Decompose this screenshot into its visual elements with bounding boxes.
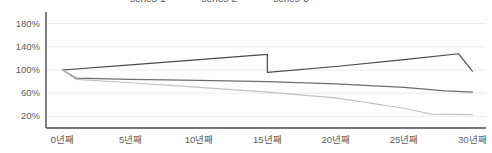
x-axis-tick-label: 15년째: [253, 134, 282, 145]
x-axis-tick-label: 0년째: [51, 134, 74, 145]
x-axis-tick-labels: 0년째5년째10년째15년째20년째25년째30년째: [0, 0, 492, 153]
x-axis-tick-label: 20년째: [321, 134, 350, 145]
x-axis-tick-label: 10년째: [185, 134, 214, 145]
x-axis-tick-label: 30년째: [458, 134, 487, 145]
x-axis-tick-label: 25년째: [390, 134, 419, 145]
line-chart: series-1series-2series-3 180%140%100%60%…: [0, 0, 492, 153]
x-axis-tick-label: 5년째: [119, 134, 142, 145]
